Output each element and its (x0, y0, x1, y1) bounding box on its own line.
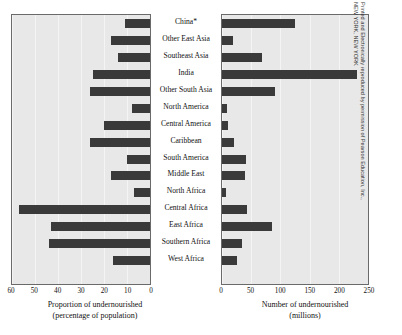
category-label: Middle East (151, 166, 221, 183)
bar-row (12, 151, 150, 168)
bar-row (12, 32, 150, 49)
bar (222, 19, 295, 28)
bar (222, 104, 227, 113)
bar (222, 138, 234, 147)
bar (125, 19, 150, 28)
left-chart-axis-title: Proportion of undernourished (percentage… (0, 299, 190, 321)
category-label: Other East Asia (151, 31, 221, 48)
bar (127, 155, 150, 164)
axis-tick-label: 0 (219, 287, 223, 295)
category-label: North America (151, 99, 221, 116)
bar (222, 53, 262, 62)
category-label: South America (151, 150, 221, 167)
category-label: India (151, 65, 221, 82)
right-axis-title-line2: (millions) (210, 310, 400, 321)
bar (90, 138, 150, 147)
bar-row (12, 66, 150, 83)
gridline (368, 15, 369, 284)
bar (132, 104, 150, 113)
axis-tick-label: 40 (54, 287, 61, 295)
left-chart-x-axis-ticks: 6050403020100 (11, 287, 151, 297)
bar (49, 239, 150, 248)
category-label: North Africa (151, 183, 221, 200)
category-label: Central America (151, 116, 221, 133)
bar-row (12, 218, 150, 235)
bar (93, 70, 151, 79)
left-chart-bars (12, 15, 150, 284)
credit-line-2: NEW YORK, NEW YORK (352, 2, 359, 300)
axis-tick-label: 50 (31, 287, 38, 295)
bar (222, 222, 272, 231)
bar (222, 188, 226, 197)
bar (51, 222, 150, 231)
axis-tick-label: 10 (124, 287, 131, 295)
axis-tick-label: 50 (247, 287, 254, 295)
bar (118, 53, 150, 62)
bar-row (12, 235, 150, 252)
bar-row (12, 49, 150, 66)
bar-row (12, 117, 150, 134)
bar (104, 121, 150, 130)
axis-tick-label: 30 (77, 287, 84, 295)
bar (90, 87, 150, 96)
category-label: Southern Africa (151, 234, 221, 251)
bar (111, 171, 150, 180)
bar (222, 256, 237, 265)
bar-row (12, 100, 150, 117)
axis-tick-label: 20 (101, 287, 108, 295)
axis-tick-label: 150 (304, 287, 315, 295)
bar-row (12, 15, 150, 32)
right-axis-title-line1: Number of undernourished (210, 299, 400, 310)
copyright-credit: Printed and Electronically reproduced by… (332, 0, 366, 300)
bar-row (12, 201, 150, 218)
category-label: Southeast Asia (151, 48, 221, 65)
category-label: West Africa (151, 251, 221, 268)
bar (222, 121, 228, 130)
bar (222, 36, 233, 45)
bar (222, 205, 247, 214)
right-chart-axis-title: Number of undernourished (millions) (210, 299, 400, 321)
left-axis-title-line2: (percentage of population) (0, 310, 190, 321)
category-label: East Africa (151, 217, 221, 234)
axis-tick-label: 60 (7, 287, 14, 295)
axis-tick-label: 0 (149, 287, 153, 295)
axis-tick-label: 100 (275, 287, 286, 295)
left-chart-plot-area (11, 14, 151, 285)
category-label: Central Africa (151, 200, 221, 217)
bar (111, 36, 150, 45)
category-label: Caribbean (151, 133, 221, 150)
bar-row (12, 83, 150, 100)
bar (222, 171, 245, 180)
bar (222, 87, 275, 96)
category-label: Other South Asia (151, 82, 221, 99)
bar-row (12, 252, 150, 269)
bar (222, 155, 246, 164)
bar (113, 256, 150, 265)
chart-figure: China*Other East AsiaSoutheast AsiaIndia… (0, 0, 402, 335)
category-label-column: China*Other East AsiaSoutheast AsiaIndia… (151, 14, 221, 285)
bar-row (12, 167, 150, 184)
bar (19, 205, 150, 214)
bar-row (12, 184, 150, 201)
bar (222, 239, 242, 248)
credit-line-1: Printed and Electronically reproduced by… (359, 2, 366, 300)
category-label: China* (151, 14, 221, 31)
bar (134, 188, 150, 197)
left-axis-title-line1: Proportion of undernourished (0, 299, 190, 310)
bar-row (12, 134, 150, 151)
